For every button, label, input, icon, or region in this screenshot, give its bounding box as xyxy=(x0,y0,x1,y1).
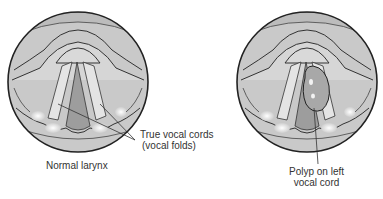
callout-line-2: vocal cord xyxy=(289,177,344,188)
caption-normal-larynx: Normal larynx xyxy=(46,160,108,171)
callout-polyp: Polyp on left vocal cord xyxy=(289,166,344,188)
callout-line-1: Polyp on left xyxy=(289,166,344,177)
polyp-larynx-illustration xyxy=(237,12,377,164)
callout-line-2: (vocal folds) xyxy=(140,140,214,151)
normal-larynx-illustration xyxy=(8,12,148,152)
callout-true-vocal-cords: True vocal cords (vocal folds) xyxy=(140,129,214,151)
callout-line-1: True vocal cords xyxy=(140,129,214,140)
